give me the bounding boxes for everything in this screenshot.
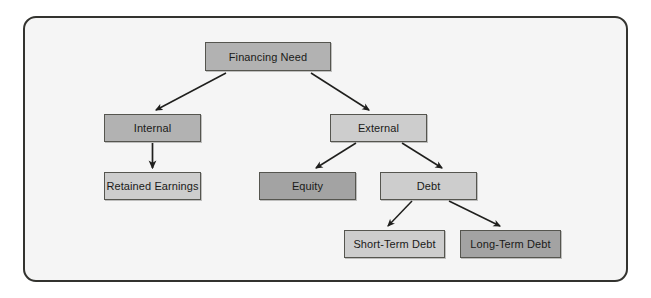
node-external-label: External [358, 122, 399, 134]
node-long-term-debt-label: Long-Term Debt [470, 238, 550, 250]
node-retained-earnings[interactable]: Retained Earnings [104, 172, 201, 200]
node-retained-earnings-label: Retained Earnings [106, 180, 198, 192]
node-long-term-debt[interactable]: Long-Term Debt [460, 230, 561, 258]
node-equity-label: Equity [292, 180, 323, 192]
node-short-term-debt[interactable]: Short-Term Debt [344, 230, 445, 258]
node-internal-label: Internal [134, 122, 172, 134]
node-internal[interactable]: Internal [104, 114, 201, 142]
node-equity[interactable]: Equity [259, 172, 356, 200]
financing-need-diagram: Financing Need Internal External Retaine… [0, 0, 651, 298]
node-external[interactable]: External [330, 114, 427, 142]
node-financing-need-label: Financing Need [229, 51, 307, 63]
node-debt-label: Debt [417, 180, 441, 192]
node-short-term-debt-label: Short-Term Debt [353, 238, 435, 250]
node-debt[interactable]: Debt [380, 172, 477, 200]
node-financing-need[interactable]: Financing Need [205, 42, 331, 71]
